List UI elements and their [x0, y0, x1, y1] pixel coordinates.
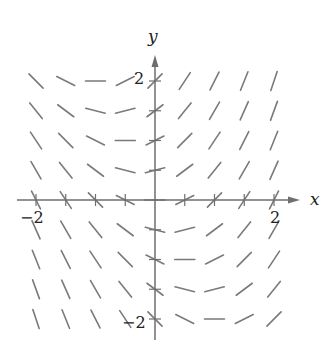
- slope-segment: [116, 108, 135, 113]
- slope-segment: [205, 287, 224, 292]
- slope-segment: [116, 168, 135, 173]
- slope-segment: [33, 280, 40, 299]
- slope-segment: [175, 227, 194, 232]
- slope-segment: [119, 281, 131, 297]
- slope-segment: [89, 222, 101, 238]
- slope-segment: [33, 310, 39, 329]
- slope-segment: [210, 72, 219, 90]
- slope-segment: [210, 102, 220, 119]
- slope-segment: [270, 161, 278, 179]
- y-axis-label: y: [147, 26, 158, 46]
- slope-segment: [31, 162, 41, 179]
- slope-segment: [58, 105, 74, 117]
- x-tick-label-neg2: −2: [20, 208, 44, 227]
- slope-segment: [90, 251, 101, 268]
- slope-segment: [29, 74, 43, 88]
- slope-segment: [177, 164, 193, 176]
- slope-segment: [60, 162, 72, 178]
- slope-segment: [206, 255, 224, 264]
- slope-segment: [241, 72, 248, 91]
- slope-segment: [62, 310, 69, 329]
- slope-segment: [236, 283, 252, 295]
- y-axis-arrow-icon: [152, 55, 159, 67]
- slope-field-diagram: y x −2 2 2 −2: [0, 0, 332, 357]
- slope-segment: [91, 310, 100, 328]
- slope-segment: [270, 131, 277, 150]
- slope-segment: [179, 73, 190, 90]
- x-tick-label-2: 2: [270, 208, 280, 227]
- slope-segment: [62, 280, 70, 298]
- slope-segment: [209, 132, 220, 149]
- slope-segment: [176, 315, 194, 324]
- slope-segment: [268, 281, 280, 297]
- x-axis-arrow-icon: [288, 197, 300, 204]
- slope-segment: [118, 252, 132, 266]
- slope-field-plot: y x −2 2 2 −2: [0, 0, 332, 357]
- slope-segment: [57, 77, 75, 86]
- slope-segment: [87, 136, 105, 145]
- slope-segment: [271, 72, 277, 91]
- slope-segment: [239, 162, 249, 179]
- slope-segment: [32, 250, 39, 269]
- slope-segment: [178, 133, 192, 147]
- slope-segment: [88, 164, 104, 176]
- slope-segment: [207, 224, 223, 236]
- y-tick-label-2: 2: [134, 69, 144, 88]
- slope-segment: [117, 224, 133, 236]
- y-tick-label-neg2: −2: [122, 313, 146, 332]
- slope-segment: [208, 162, 220, 178]
- slope-segment: [240, 132, 249, 150]
- slope-segment: [61, 221, 71, 238]
- slope-segment: [61, 251, 70, 269]
- slope-segment: [91, 281, 101, 298]
- slope-segment: [179, 103, 191, 119]
- slope-segment: [30, 103, 42, 119]
- slope-segment: [268, 251, 279, 268]
- slope-segment: [86, 108, 105, 113]
- slope-segment: [238, 222, 250, 238]
- slope-segment: [30, 132, 41, 149]
- slope-segment: [267, 312, 281, 326]
- slope-segment: [116, 77, 134, 86]
- slope-segment: [271, 101, 278, 120]
- slope-segment: [235, 315, 253, 324]
- slope-segment: [237, 252, 251, 266]
- slope-segment: [175, 287, 194, 292]
- axes: [17, 55, 300, 340]
- x-axis-label: x: [310, 189, 320, 209]
- slope-segment: [240, 102, 248, 120]
- slope-segment: [59, 133, 73, 147]
